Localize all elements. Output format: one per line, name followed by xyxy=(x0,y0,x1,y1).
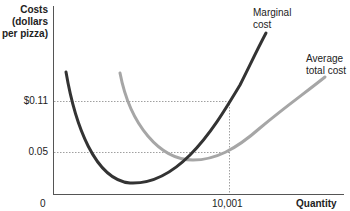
atc-curve xyxy=(120,73,325,160)
y-axis-title-line: Costs xyxy=(0,4,48,16)
y-axis-title: Costs (dollars per pizza) xyxy=(0,4,48,40)
mc-curve xyxy=(66,33,266,183)
atc-label-line: total cost xyxy=(306,65,346,77)
y-axis-title-line: per pizza) xyxy=(0,28,48,40)
chart-plot-area xyxy=(0,0,350,211)
mc-label: Marginal cost xyxy=(253,7,291,31)
y-tick-005: 0.05 xyxy=(0,146,48,158)
x-axis-title: Quantity xyxy=(296,198,337,210)
atc-label: Average total cost xyxy=(306,53,346,77)
y-tick-011: $0.11 xyxy=(0,95,48,107)
atc-label-line: Average xyxy=(306,53,346,65)
mc-label-line: cost xyxy=(253,19,291,31)
y-axis-title-line: (dollars xyxy=(0,16,48,28)
x-tick-10001: 10,001 xyxy=(212,198,243,210)
mc-label-line: Marginal xyxy=(253,7,291,19)
origin-label: 0 xyxy=(40,198,46,210)
